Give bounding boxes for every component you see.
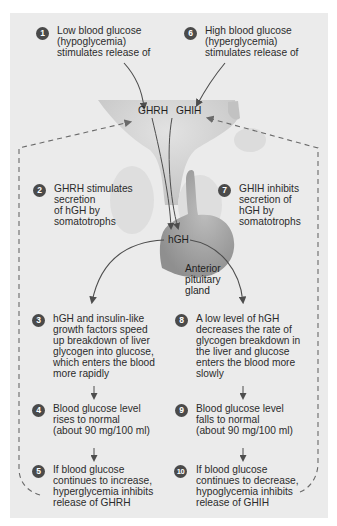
step-number-badge: 7	[218, 184, 231, 197]
ghrh-label: GHRH	[138, 105, 168, 116]
step-text: Blood glucose level falls to normal (abo…	[196, 403, 293, 436]
step-number-badge: 4	[32, 404, 45, 417]
step-text: If blood glucose continues to increase, …	[53, 464, 153, 508]
step-number-badge: 6	[184, 27, 197, 40]
step-number-badge: 3	[32, 314, 45, 327]
step-text: Blood glucose level rises to normal (abo…	[53, 403, 150, 436]
step-text: A low level of hGH decreases the rate of…	[196, 313, 300, 379]
step-number-badge: 8	[175, 314, 188, 327]
step-text: High blood glucose (hyperglycemia) stimu…	[205, 25, 298, 58]
step-text: Low blood glucose (hypoglycemia) stimula…	[57, 25, 150, 58]
step-number-badge: 2	[33, 184, 46, 197]
step-text: GHRH stimulates secretion of hGH by soma…	[54, 183, 133, 227]
arrow-step6-to-ghih	[197, 63, 225, 105]
step-number-badge: 10	[174, 465, 187, 478]
step-text: If blood glucose continues to decrease, …	[196, 464, 299, 508]
step-number-badge: 1	[36, 27, 49, 40]
step-text: GHIH inhibits secretion of hGH by somato…	[239, 183, 301, 227]
step-number-badge: 9	[175, 404, 188, 417]
anterior-pituitary-label: Anterior pituitary gland	[185, 263, 221, 296]
pituitary-illustration	[0, 0, 337, 526]
step-text: hGH and insulin-like growth factors spee…	[53, 313, 155, 379]
hgh-label: hGH	[168, 234, 189, 245]
step-number-badge: 5	[32, 465, 45, 478]
ghih-label: GHIH	[176, 105, 201, 116]
arrow-hgh-to-step3	[92, 240, 164, 302]
feedback-loop-dashed-left	[19, 122, 130, 495]
